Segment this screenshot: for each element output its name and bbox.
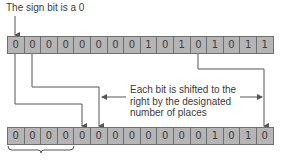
sign-extension-brace	[8, 146, 74, 153]
bit-cell: 0	[224, 37, 241, 53]
shift-wire-bit1	[32, 54, 99, 126]
bit-cell: 0	[174, 128, 191, 144]
bit-cell: 0	[8, 128, 25, 144]
bit-cell: 1	[240, 37, 257, 53]
bit-cell: 0	[157, 128, 174, 144]
bit-cell: 0	[58, 128, 75, 144]
bit-cell: 0	[108, 128, 125, 144]
bit-cell: 0	[141, 128, 158, 144]
annotation-line-3: number of places	[130, 107, 236, 119]
bit-cell: 0	[124, 37, 141, 53]
shift-wire-bit0	[15, 54, 82, 126]
bit-cell: 1	[240, 128, 257, 144]
bit-cell: 0	[8, 37, 25, 53]
bit-cell: 1	[207, 128, 224, 144]
bit-cell: 0	[257, 128, 273, 144]
bit-cell: 0	[108, 37, 125, 53]
original-register: 0 0 0 0 0 0 0 0 1 0 1 0 1 0 1 1	[7, 36, 274, 54]
bit-cell: 0	[74, 37, 91, 53]
bit-cell: 1	[141, 37, 158, 53]
bit-cell: 0	[91, 128, 108, 144]
bit-cell: 0	[25, 128, 42, 144]
bit-cell: 0	[191, 128, 208, 144]
annotation-line-1: Each bit is shifted to the	[130, 84, 236, 96]
bit-cell: 0	[58, 37, 75, 53]
bit-cell: 1	[207, 37, 224, 53]
bit-cell: 1	[174, 37, 191, 53]
shifted-register: 0 0 0 0 0 0 0 0 0 0 0 0 1 0 1 0	[7, 127, 274, 145]
shift-annotation: Each bit is shifted to the right by the …	[130, 84, 236, 119]
bit-cell: 1	[257, 37, 273, 53]
bit-cell: 0	[124, 128, 141, 144]
bit-cell: 0	[157, 37, 174, 53]
bit-cell: 0	[74, 128, 91, 144]
bit-cell: 0	[191, 37, 208, 53]
bit-cell: 0	[25, 37, 42, 53]
bit-cell: 0	[91, 37, 108, 53]
bit-cell: 0	[224, 128, 241, 144]
bit-cell: 0	[41, 128, 58, 144]
bit-cell: 0	[41, 37, 58, 53]
annotation-line-2: right by the designated	[130, 96, 236, 108]
